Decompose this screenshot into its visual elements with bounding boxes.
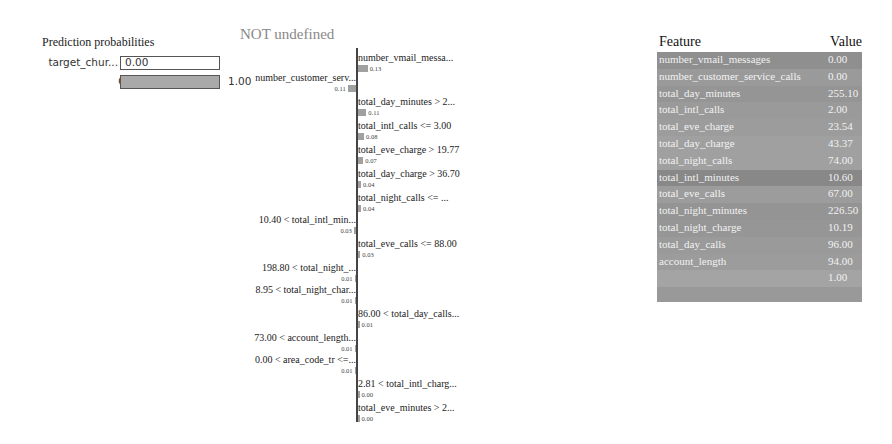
feature-label: 86.00 < total_day_calls... [358, 308, 459, 319]
feature-bar [355, 345, 357, 352]
feature-value: 10.19 [828, 221, 853, 233]
table-row: total_intl_calls2.00 [657, 102, 862, 119]
feature-label: 10.40 < total_intl_min... [259, 214, 356, 225]
feature-name: number_vmail_messages [659, 53, 770, 65]
feature-bar [348, 85, 356, 92]
feature-name: total_night_charge [659, 221, 741, 233]
feature-bar-value: 0.01 [341, 297, 352, 304]
feature-bar-value: 0.11 [335, 85, 346, 92]
feature-bar [355, 367, 357, 374]
feature-bar [358, 181, 361, 188]
table-row: account_length94.00 [657, 254, 862, 271]
feature-bar [355, 297, 357, 304]
feature-bar-value: 0.04 [363, 205, 374, 212]
feature-bar-value: 0.04 [363, 181, 374, 188]
explanation-title: NOT undefined [240, 26, 334, 43]
feature-name: total_eve_charge [659, 120, 734, 132]
feature-bar-value: 0.01 [341, 367, 352, 374]
feature-bar [358, 205, 361, 212]
table-row: total_day_charge43.37 [657, 136, 862, 153]
feature-name: total_day_charge [659, 137, 735, 149]
feature-label: 198.80 < total_night_... [262, 262, 356, 273]
table-row: total_day_minutes255.10 [657, 86, 862, 103]
feature-bar [358, 65, 368, 72]
feature-bar [358, 391, 360, 398]
feature-value-table: Feature Value number_vmail_messages0.00n… [657, 34, 862, 302]
feature-bar-value: 0.07 [365, 157, 376, 164]
table-row: total_eve_calls67.00 [657, 186, 862, 203]
feature-label: total_eve_minutes > 2... [358, 402, 454, 413]
feature-value: 10.60 [828, 171, 853, 183]
feature-value: 0.00 [828, 53, 847, 65]
prediction-probabilities-title: Prediction probabilities [42, 35, 154, 50]
table-row: total_night_charge10.19 [657, 220, 862, 237]
feature-label: total_intl_calls <= 3.00 [358, 120, 451, 131]
feature-bar-value: 0.03 [340, 227, 351, 234]
feature-label: 0.00 < area_code_tr <=... [255, 354, 356, 365]
feature-label: number_customer_serv... [255, 72, 356, 83]
feature-name: total_intl_calls [659, 103, 724, 115]
feature-value: 94.00 [828, 255, 853, 267]
feature-value: 255.10 [828, 87, 858, 99]
probability-label: target_chur... [8, 56, 118, 68]
feature-value: 67.00 [828, 187, 853, 199]
feature-bar-value: 0.08 [366, 133, 377, 140]
header-feature: Feature [659, 34, 701, 50]
feature-label: 8.95 < total_night_char... [255, 284, 356, 295]
table-row: total_night_calls74.00 [657, 153, 862, 170]
feature-value: 96.00 [828, 238, 853, 250]
feature-value: 43.37 [828, 137, 853, 149]
feature-value: 226.50 [828, 204, 858, 216]
feature-bar [354, 227, 356, 234]
feature-bar-value: 0.00 [362, 415, 373, 422]
feature-label: 2.81 < total_intl_charg... [358, 378, 457, 389]
feature-name: total_eve_calls [659, 187, 725, 199]
feature-value: 23.54 [828, 120, 853, 132]
feature-bar-value: 0.01 [341, 345, 352, 352]
feature-label: total_eve_charge > 19.77 [358, 144, 459, 155]
probability-bar [120, 75, 220, 89]
feature-value: 74.00 [828, 154, 853, 166]
feature-bar-value: 0.13 [370, 65, 381, 72]
prediction-probabilities-panel: Prediction probabilities target_chur... … [0, 0, 230, 120]
feature-name: total_day_calls [659, 238, 726, 250]
feature-name: total_night_minutes [659, 204, 747, 216]
header-value: Value [830, 34, 862, 50]
feature-bar [358, 133, 364, 140]
feature-bar-value: 0.11 [368, 109, 379, 116]
feature-bar-value: 0.01 [341, 275, 352, 282]
probability-bar-fill [121, 76, 219, 88]
feature-label: total_eve_calls <= 88.00 [358, 238, 457, 249]
table-row: total_night_minutes226.50 [657, 203, 862, 220]
feature-label: number_vmail_messa... [358, 52, 453, 63]
feature-bar-value: 0.03 [362, 251, 373, 258]
probability-row-other: Other 1.00 [0, 75, 260, 89]
feature-bar [358, 251, 360, 258]
probability-bar: 0.00 [120, 56, 220, 70]
feature-value: 0.00 [828, 70, 847, 82]
table-row: total_intl_minutes10.60 [657, 170, 862, 187]
table-row: 1.00 [657, 270, 862, 287]
table-row: total_day_calls96.00 [657, 237, 862, 254]
table-row: total_eve_charge23.54 [657, 119, 862, 136]
explanation-chart: NOT undefined number_vmail_messa...0.13n… [230, 0, 490, 444]
feature-bar-value: 0.01 [362, 321, 373, 328]
table-row: number_customer_service_calls0.00 [657, 69, 862, 86]
table-header: Feature Value [657, 34, 862, 52]
feature-name: total_night_calls [659, 154, 732, 166]
feature-name: total_intl_minutes [659, 171, 739, 183]
feature-label: 73.00 < account_length... [254, 332, 356, 343]
feature-bar-value: 0.00 [362, 391, 373, 398]
feature-label: total_day_minutes > 2... [358, 96, 455, 107]
feature-value: 2.00 [828, 103, 847, 115]
table-body[interactable]: number_vmail_messages0.00number_customer… [657, 52, 862, 302]
probability-value: 0.00 [125, 56, 148, 68]
feature-value: 1.00 [828, 271, 847, 283]
feature-bar [358, 109, 366, 116]
table-row: number_vmail_messages0.00 [657, 52, 862, 69]
feature-label: total_night_calls <= ... [358, 192, 448, 203]
feature-bar [358, 321, 360, 328]
feature-name: number_customer_service_calls [659, 70, 801, 82]
feature-name: account_length [659, 255, 726, 267]
feature-label: total_day_charge > 36.70 [358, 168, 460, 179]
